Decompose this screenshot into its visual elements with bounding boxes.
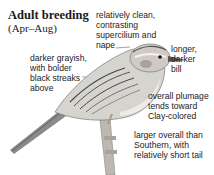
annotation-supercilium: relatively clean, contrasting superciliu… bbox=[96, 10, 156, 50]
bird-tail bbox=[10, 112, 66, 154]
annotation-back: darker grayish, with bolder black streak… bbox=[30, 53, 87, 93]
perch-stick bbox=[100, 118, 115, 175]
bird-eye bbox=[158, 55, 162, 59]
annotation-plumage: overall plumage tends toward Clay-colore… bbox=[148, 91, 209, 121]
annotation-bill: longer, darker bill bbox=[171, 44, 197, 74]
annotation-size: larger overall than Southern, with relat… bbox=[134, 130, 203, 160]
